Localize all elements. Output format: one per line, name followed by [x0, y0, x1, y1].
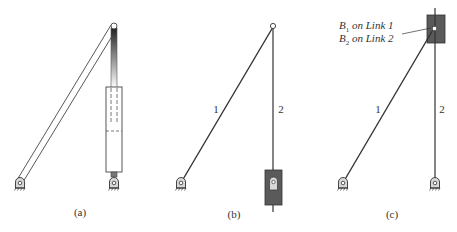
top-joint: [270, 23, 275, 28]
caption-c: (c): [386, 208, 399, 221]
ground-pivot-icon: [109, 178, 120, 191]
ground-pivot-icon: [338, 178, 349, 191]
link-label-1: 1: [213, 103, 219, 115]
hydraulic-cylinder: [106, 87, 122, 172]
ground-pivot-icon: [176, 178, 187, 191]
caption-b: (b): [228, 208, 241, 221]
ground-pivot-icon: [15, 178, 26, 191]
mechanism-diagram: (a) 1 2 (b) B1 on Link 1 B2 on Link 2 1 …: [0, 0, 457, 232]
ground-pivot-icon: [430, 178, 441, 191]
piston-rod: [111, 28, 117, 88]
panel-c: B1 on Link 1 B2 on Link 2 1 2 (c): [338, 8, 446, 221]
slider-block: [265, 170, 282, 205]
link-label-1: 1: [375, 103, 381, 115]
link-label-2: 2: [439, 103, 445, 115]
link-1: [182, 27, 273, 181]
link-label-2: 2: [278, 103, 284, 115]
panel-b: 1 2 (b): [176, 23, 284, 221]
link-1: [344, 28, 434, 181]
panel-a: (a): [15, 23, 123, 219]
caption-a: (a): [74, 206, 87, 219]
top-joint: [111, 23, 117, 29]
pin-b: [433, 27, 437, 31]
bar-link: [17, 25, 117, 182]
annotation-b2: B2 on Link 2: [339, 32, 394, 47]
